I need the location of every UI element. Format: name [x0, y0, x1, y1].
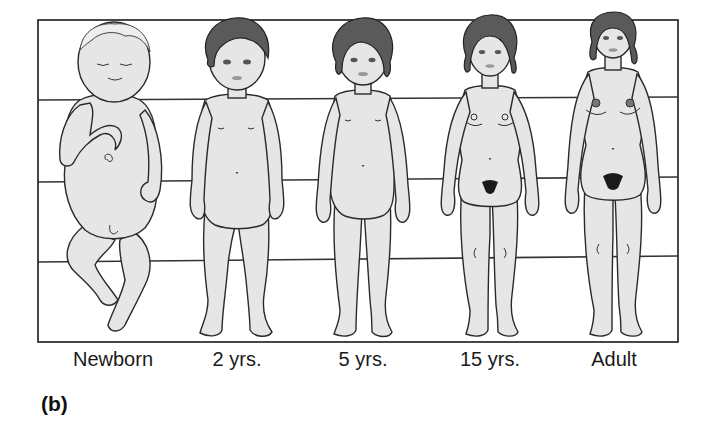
figure-newborn: [60, 22, 162, 331]
figure-15yrs: [441, 15, 539, 336]
stage-label-adult: Adult: [591, 348, 637, 371]
stage-label-newborn: Newborn: [73, 348, 153, 371]
stage-label-5yrs: 5 yrs.: [339, 348, 388, 371]
panel-label: (b): [41, 392, 68, 416]
stage-labels: Newborn 2 yrs. 5 yrs. 15 yrs. Adult: [0, 348, 714, 378]
stage-label-15yrs: 15 yrs.: [460, 348, 520, 371]
figure-adult: [565, 12, 661, 336]
stage-label-2yrs: 2 yrs.: [213, 348, 262, 371]
figure-2yrs: [190, 18, 284, 336]
body-proportions-diagram: .skin { fill: #e6e6e6; stroke: #2a2a2a; …: [0, 0, 714, 350]
figure-5yrs: [316, 18, 410, 337]
